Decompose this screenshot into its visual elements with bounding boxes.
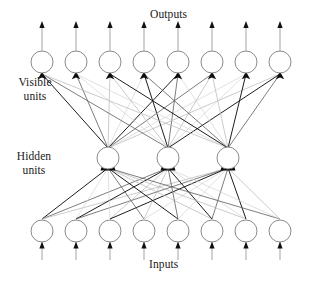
hidden-to-visible-edges — [42, 74, 280, 148]
visible-output-layer-node-0 — [31, 51, 53, 73]
hidden-layer-node-1 — [157, 147, 179, 169]
visible-output-layer-node-6 — [235, 51, 257, 73]
input-arrowhead-5 — [209, 242, 214, 249]
input-arrowhead-0 — [39, 242, 44, 249]
input-layer-node-1 — [65, 220, 87, 242]
hidden-units-label: Hidden units — [6, 150, 62, 177]
network-diagram: Outputs Inputs Visible units Hidden unit… — [0, 0, 332, 281]
input-arrowhead-3 — [141, 242, 146, 249]
edge-input-1-hidden-0 — [76, 168, 108, 219]
input-layer-node-0 — [31, 220, 53, 242]
edge-hidden-1-visible-1 — [76, 74, 168, 148]
edge-hidden-1-visible-6 — [168, 74, 246, 148]
edge-hidden-0-visible-5 — [108, 74, 212, 148]
visible-output-layer-node-4 — [167, 51, 189, 73]
outputs-label: Outputs — [150, 8, 187, 22]
edge-input-2-hidden-0 — [108, 168, 110, 219]
edge-input-1-hidden-1 — [76, 168, 168, 219]
edge-input-5-hidden-0 — [108, 168, 212, 219]
inputs-label: Inputs — [149, 258, 178, 272]
visible-output-layer-node-5 — [201, 51, 223, 73]
edge-input-6-hidden-1 — [168, 168, 246, 219]
output-arrowhead-6 — [243, 21, 248, 28]
edge-input-7-hidden-1 — [168, 168, 280, 219]
visible-output-layer-node-1 — [65, 51, 87, 73]
output-arrowhead-1 — [73, 21, 78, 28]
hidden-layer-node-0 — [97, 147, 119, 169]
visible-units-label: Visible units — [8, 76, 62, 103]
output-arrowhead-4 — [175, 21, 180, 28]
visible-output-layer-node-7 — [269, 51, 291, 73]
input-layer-node-3 — [133, 220, 155, 242]
network-canvas — [0, 0, 332, 281]
input-layer-node-2 — [99, 220, 121, 242]
visible-output-layer-node-2 — [99, 51, 121, 73]
edge-hidden-2-visible-0 — [42, 74, 228, 148]
edge-input-6-hidden-2 — [228, 168, 246, 219]
edge-hidden-1-visible-7 — [168, 74, 280, 148]
input-to-hidden-edges — [42, 168, 280, 219]
edge-input-3-hidden-2 — [144, 168, 228, 219]
visible-output-layer-node-3 — [133, 51, 155, 73]
edge-hidden-2-visible-2 — [110, 74, 228, 148]
output-arrowhead-7 — [277, 21, 282, 28]
input-arrowhead-1 — [73, 242, 78, 249]
hidden-layer-node-2 — [217, 147, 239, 169]
input-layer-node-7 — [269, 220, 291, 242]
input-arrowhead-4 — [175, 242, 180, 249]
edge-hidden-0-visible-2 — [108, 74, 110, 148]
input-layer-node-6 — [235, 220, 257, 242]
input-arrowhead-7 — [277, 242, 282, 249]
input-layer-node-4 — [167, 220, 189, 242]
input-layer-node-5 — [201, 220, 223, 242]
input-arrowhead-2 — [107, 242, 112, 249]
edge-hidden-2-visible-6 — [228, 74, 246, 148]
edge-hidden-2-visible-3 — [144, 74, 228, 148]
edge-hidden-0-visible-1 — [76, 74, 108, 148]
unit-nodes — [31, 51, 291, 242]
output-arrowhead-2 — [107, 21, 112, 28]
output-arrowhead-0 — [39, 21, 44, 28]
output-arrowhead-3 — [141, 21, 146, 28]
input-arrowhead-6 — [243, 242, 248, 249]
output-arrowhead-5 — [209, 21, 214, 28]
